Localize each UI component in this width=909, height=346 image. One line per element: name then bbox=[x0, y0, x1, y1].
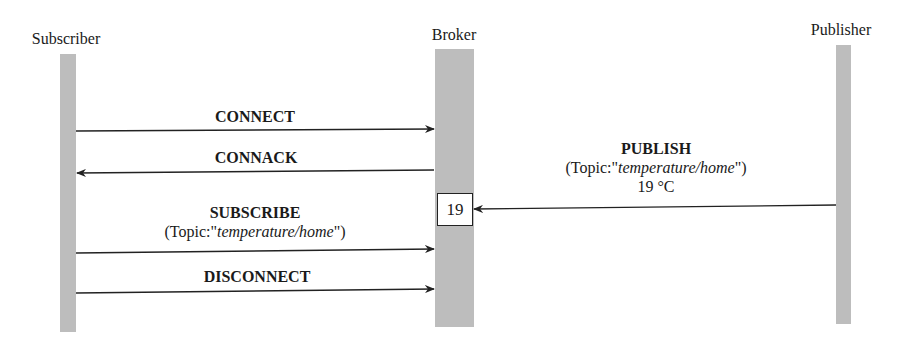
arrow-subscribe bbox=[76, 249, 434, 253]
subscribe-title: SUBSCRIBE bbox=[164, 203, 345, 222]
arrow-connack bbox=[77, 170, 434, 173]
message-arrows bbox=[0, 0, 909, 346]
message-label-publish: PUBLISH (Topic:"temperature/home") 19 °C bbox=[565, 139, 746, 196]
publish-title: PUBLISH bbox=[565, 139, 746, 158]
message-label-connect: CONNECT bbox=[215, 107, 295, 126]
arrow-connect bbox=[76, 129, 434, 131]
broker-retained-value-box: 19 bbox=[437, 193, 473, 226]
publish-payload: 19 °C bbox=[565, 177, 746, 196]
subscribe-topic: (Topic:"temperature/home") bbox=[164, 222, 345, 241]
arrow-disconnect bbox=[76, 289, 434, 293]
arrow-publish bbox=[474, 205, 836, 209]
publish-topic: (Topic:"temperature/home") bbox=[565, 158, 746, 177]
message-label-disconnect: DISCONNECT bbox=[204, 267, 311, 286]
message-label-connack: CONNACK bbox=[215, 148, 298, 167]
message-label-subscribe: SUBSCRIBE (Topic:"temperature/home") bbox=[164, 203, 345, 241]
